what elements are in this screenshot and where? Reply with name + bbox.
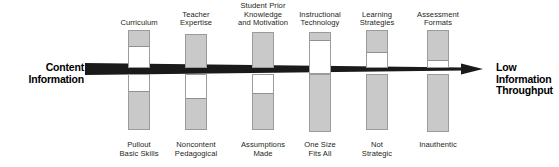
column-6-lower-gauge-fill	[428, 75, 448, 131]
column-6-bottom-label: Inauthentic	[401, 141, 475, 150]
column-1-lower-gauge-fill	[129, 91, 149, 129]
column-2-lower-gauge-fill	[186, 98, 206, 129]
column-2: TeacherExpertiseNoncontentPedagogical	[159, 0, 233, 167]
column-1-upper-gauge	[128, 30, 150, 68]
column-2-bottom-label: NoncontentPedagogical	[159, 141, 233, 158]
column-1-upper-gauge-fill	[129, 31, 149, 47]
column-6-upper-gauge-fill	[428, 31, 448, 61]
right-end-label-line-3: Throughput	[496, 85, 559, 97]
column-4-upper-gauge-fill	[310, 33, 330, 41]
column-5-lower-gauge	[366, 74, 388, 130]
column-5-upper-gauge	[366, 30, 388, 68]
column-5-upper-gauge-fill	[367, 31, 387, 53]
column-2-lower-gauge	[185, 74, 207, 130]
right-end-label-line-1: Low	[496, 62, 559, 74]
column-2-upper-gauge-fill	[186, 35, 206, 67]
column-1-lower-gauge	[128, 74, 150, 130]
column-3-upper-gauge	[252, 32, 274, 68]
column-4-lower-gauge	[309, 74, 331, 132]
column-6-lower-gauge	[427, 74, 449, 132]
column-2-upper-gauge	[185, 34, 207, 68]
left-end-label: Content Information	[0, 62, 84, 85]
column-3-lower-gauge	[252, 74, 274, 130]
column-2-top-label-line-2: Expertise	[159, 19, 233, 28]
right-end-label: Low Information Throughput	[496, 62, 559, 97]
information-throughput-diagram: Content Information Low Information Thro…	[0, 0, 559, 167]
column-6-top-label: AssessmentFormats	[401, 11, 475, 28]
column-2-top-label: TeacherExpertise	[159, 11, 233, 28]
column-4-lower-gauge-fill	[310, 75, 330, 131]
column-6-bottom-label-line-1: Inauthentic	[401, 141, 475, 150]
column-6-upper-gauge	[427, 30, 449, 68]
column-6: AssessmentFormatsInauthentic	[401, 0, 475, 167]
column-5-lower-gauge-fill	[367, 75, 387, 129]
left-end-label-line-2: Information	[0, 74, 84, 86]
left-end-label-line-1: Content	[0, 62, 84, 74]
column-3-lower-gauge-fill	[253, 93, 273, 129]
column-2-bottom-label-line-2: Pedagogical	[159, 150, 233, 159]
column-3-upper-gauge-fill	[253, 33, 273, 67]
column-6-top-label-line-2: Formats	[401, 19, 475, 28]
column-4-upper-gauge	[309, 32, 331, 74]
